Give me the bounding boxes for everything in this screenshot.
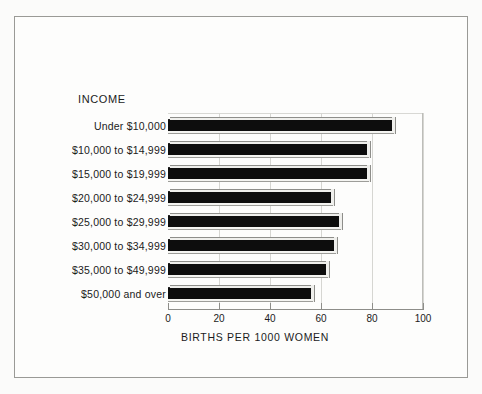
bar-top-edge xyxy=(170,117,394,120)
bar-bottom-edge xyxy=(168,299,313,302)
x-tick-label-100: 100 xyxy=(415,313,432,324)
gridline-80 xyxy=(372,113,373,309)
bar xyxy=(168,117,396,134)
category-label: $15,000 to $19,999 xyxy=(20,168,166,180)
bar-top-edge xyxy=(170,189,333,192)
bar xyxy=(168,237,338,254)
bar-bottom-edge xyxy=(168,203,333,206)
bar-top-edge xyxy=(170,285,313,288)
x-tick-0 xyxy=(168,303,169,310)
bar-bottom-edge xyxy=(168,275,328,278)
x-tick-100 xyxy=(423,303,424,310)
bar-bottom-edge xyxy=(168,155,369,158)
category-label: Under $10,000 xyxy=(20,120,166,132)
x-tick-60 xyxy=(321,303,322,310)
bar-top-edge xyxy=(170,261,328,264)
category-label: $50,000 and over xyxy=(20,288,166,300)
bar xyxy=(168,189,335,206)
x-tick-label-0: 0 xyxy=(165,313,171,324)
x-tick-label-60: 60 xyxy=(315,313,326,324)
bar xyxy=(168,141,371,158)
x-tick-label-80: 80 xyxy=(366,313,377,324)
chart-page: INCOME Under $10,000$10,000 to $14,999$1… xyxy=(0,0,482,394)
x-axis-title: BIRTHS PER 1000 WOMEN xyxy=(0,331,482,343)
bar xyxy=(168,213,343,230)
plot-top-border xyxy=(168,113,423,114)
bar-top-edge xyxy=(170,237,336,240)
bar-bottom-edge xyxy=(168,227,341,230)
category-label: $20,000 to $24,999 xyxy=(20,192,166,204)
category-label: $10,000 to $14,999 xyxy=(20,144,166,156)
x-tick-40 xyxy=(270,303,271,310)
bar-bottom-edge xyxy=(168,131,394,134)
gridline-100 xyxy=(423,113,424,309)
income-group-header: INCOME xyxy=(78,93,126,105)
x-tick-80 xyxy=(372,303,373,310)
bar xyxy=(168,285,315,302)
x-tick-label-40: 40 xyxy=(264,313,275,324)
bar xyxy=(168,261,330,278)
bar-top-edge xyxy=(170,165,369,168)
plot-area xyxy=(168,113,423,309)
x-tick-20 xyxy=(219,303,220,310)
bar-bottom-edge xyxy=(168,179,369,182)
category-label: $35,000 to $49,999 xyxy=(20,264,166,276)
x-axis-line xyxy=(168,309,424,310)
bar xyxy=(168,165,371,182)
bar-top-edge xyxy=(170,213,341,216)
x-axis-title-text: BIRTHS PER 1000 WOMEN xyxy=(181,331,329,343)
x-tick-label-20: 20 xyxy=(213,313,224,324)
bar-top-edge xyxy=(170,141,369,144)
bar-chart-figure: INCOME Under $10,000$10,000 to $14,999$1… xyxy=(0,0,482,394)
category-axis-labels: Under $10,000$10,000 to $14,999$15,000 t… xyxy=(20,115,166,307)
category-label: $25,000 to $29,999 xyxy=(20,216,166,228)
category-label: $30,000 to $34,999 xyxy=(20,240,166,252)
bar-bottom-edge xyxy=(168,251,336,254)
